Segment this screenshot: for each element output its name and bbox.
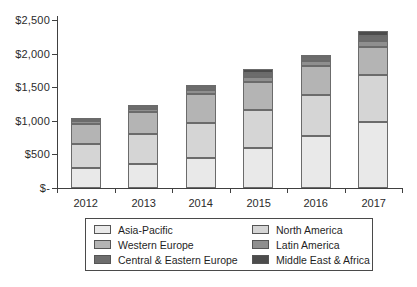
x-axis-tick bbox=[57, 189, 58, 193]
legend-item-north-america: North America bbox=[252, 223, 372, 236]
legend-label: Middle East & Africa bbox=[276, 254, 370, 266]
y-axis-label: $1,500 bbox=[0, 81, 50, 93]
x-axis-tick bbox=[230, 189, 231, 193]
bar-segment-north-america-2013 bbox=[128, 134, 158, 164]
y-axis-tick bbox=[52, 87, 57, 88]
legend-item-central-and-eastern-europe: Central & Eastern Europe bbox=[94, 253, 252, 266]
y-axis-label: $2,500 bbox=[0, 14, 50, 26]
bar-segment-asia-pacific-2017 bbox=[358, 122, 388, 188]
legend-label: Asia-Pacific bbox=[118, 224, 173, 236]
y-axis-tick bbox=[52, 20, 57, 21]
legend-swatch-central-and-eastern-europe bbox=[94, 255, 111, 264]
bar-segment-western-europe-2012 bbox=[71, 124, 101, 144]
bar-segment-central-and-eastern-europe-2016 bbox=[301, 57, 331, 61]
legend-swatch-western-europe bbox=[94, 240, 111, 249]
x-axis-label-2014: 2014 bbox=[172, 197, 230, 209]
bar-segment-western-europe-2013 bbox=[128, 112, 158, 134]
bar-segment-latin-america-2015 bbox=[243, 77, 273, 82]
legend-item-western-europe: Western Europe bbox=[94, 238, 252, 251]
bar-segment-central-and-eastern-europe-2014 bbox=[186, 87, 216, 90]
x-axis-tick bbox=[172, 189, 173, 193]
x-axis-label-2016: 2016 bbox=[287, 197, 345, 209]
bar-segment-western-europe-2014 bbox=[186, 94, 216, 123]
y-axis-tick bbox=[52, 154, 57, 155]
legend-label: Western Europe bbox=[118, 239, 194, 251]
bar-segment-latin-america-2013 bbox=[128, 109, 158, 112]
bar-segment-middle-east-and-africa-2016 bbox=[301, 55, 331, 57]
bar-segment-western-europe-2016 bbox=[301, 66, 331, 95]
bar-segment-asia-pacific-2012 bbox=[71, 168, 101, 188]
stacked-bar-chart: Asia-PacificNorth AmericaWestern EuropeL… bbox=[0, 0, 417, 287]
legend-item-middle-east-and-africa: Middle East & Africa bbox=[252, 253, 372, 266]
bar-segment-asia-pacific-2016 bbox=[301, 136, 331, 188]
bar-segment-north-america-2017 bbox=[358, 75, 388, 122]
legend-swatch-middle-east-and-africa bbox=[252, 255, 269, 264]
bar-segment-middle-east-and-africa-2017 bbox=[358, 31, 388, 36]
bar-segment-north-america-2012 bbox=[71, 144, 101, 168]
bar-segment-central-and-eastern-europe-2017 bbox=[358, 36, 388, 41]
y-axis-label: $1,000 bbox=[0, 115, 50, 127]
x-axis-label-2012: 2012 bbox=[57, 197, 115, 209]
bar-segment-middle-east-and-africa-2015 bbox=[243, 69, 273, 73]
x-axis-tick bbox=[287, 189, 288, 193]
bar-segment-middle-east-and-africa-2012 bbox=[71, 118, 101, 120]
legend-label: Latin America bbox=[276, 239, 340, 251]
legend-label: North America bbox=[276, 224, 343, 236]
y-axis bbox=[57, 16, 58, 189]
legend-swatch-north-america bbox=[252, 225, 269, 234]
x-axis-tick bbox=[115, 189, 116, 193]
legend: Asia-PacificNorth AmericaWestern EuropeL… bbox=[85, 218, 373, 271]
y-axis-tick bbox=[52, 54, 57, 55]
bar-segment-latin-america-2017 bbox=[358, 41, 388, 47]
bar-segment-north-america-2015 bbox=[243, 110, 273, 148]
legend-swatch-asia-pacific bbox=[94, 225, 111, 234]
bar-segment-middle-east-and-africa-2013 bbox=[128, 105, 158, 107]
x-axis-label-2015: 2015 bbox=[230, 197, 288, 209]
bar-segment-asia-pacific-2015 bbox=[243, 148, 273, 188]
bar-segment-north-america-2016 bbox=[301, 95, 331, 136]
x-axis-label-2017: 2017 bbox=[345, 197, 403, 209]
bar-segment-central-and-eastern-europe-2015 bbox=[243, 73, 273, 77]
bar-segment-asia-pacific-2013 bbox=[128, 164, 158, 188]
y-axis-tick bbox=[52, 121, 57, 122]
x-axis-tick bbox=[345, 189, 346, 193]
bar-segment-middle-east-and-africa-2014 bbox=[186, 85, 216, 87]
bar-segment-latin-america-2012 bbox=[71, 121, 101, 124]
y-axis-label: $- bbox=[0, 182, 50, 194]
bar-segment-asia-pacific-2014 bbox=[186, 158, 216, 188]
bar-segment-north-america-2014 bbox=[186, 123, 216, 158]
legend-swatch-latin-america bbox=[252, 240, 269, 249]
y-axis-label: $2,000 bbox=[0, 48, 50, 60]
bar-segment-western-europe-2015 bbox=[243, 82, 273, 110]
legend-item-latin-america: Latin America bbox=[252, 238, 372, 251]
bar-segment-western-europe-2017 bbox=[358, 47, 388, 75]
legend-item-asia-pacific: Asia-Pacific bbox=[94, 223, 252, 236]
bar-segment-latin-america-2016 bbox=[301, 61, 331, 66]
bar-segment-latin-america-2014 bbox=[186, 90, 216, 94]
y-axis-label: $500 bbox=[0, 148, 50, 160]
x-axis-tick bbox=[402, 189, 403, 193]
x-axis-label-2013: 2013 bbox=[115, 197, 173, 209]
legend-label: Central & Eastern Europe bbox=[118, 254, 238, 266]
